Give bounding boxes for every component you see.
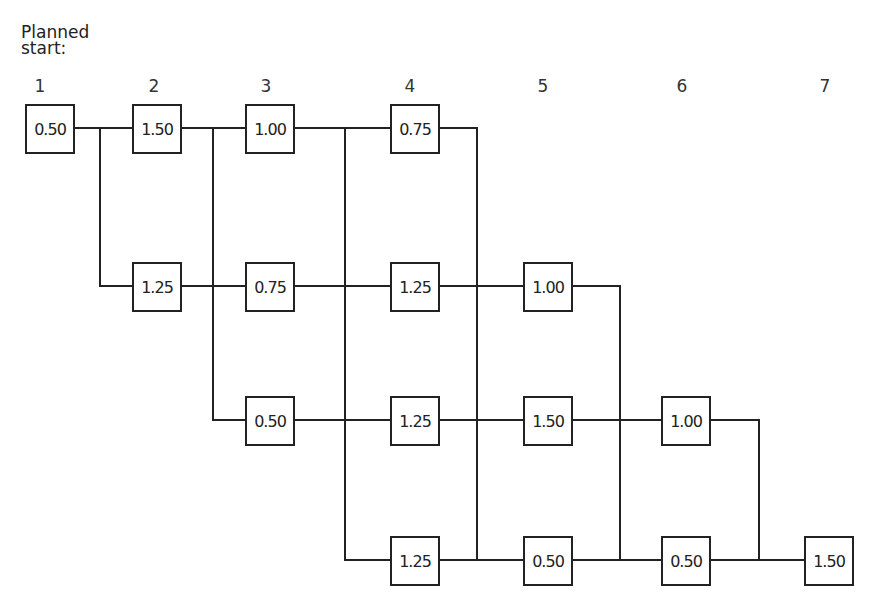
activity-node: 1.25 (390, 536, 440, 586)
activity-node: 0.50 (661, 536, 711, 586)
activity-node: 1.25 (390, 262, 440, 312)
activity-node: 0.75 (245, 262, 295, 312)
activity-node: 1.00 (523, 262, 573, 312)
activity-node: 0.50 (523, 536, 573, 586)
activity-node: 1.50 (132, 104, 182, 154)
activity-node: 0.50 (25, 104, 75, 154)
activity-node: 0.50 (245, 396, 295, 446)
activity-node: 1.50 (523, 396, 573, 446)
activity-node: 1.00 (245, 104, 295, 154)
activity-node: 1.25 (132, 262, 182, 312)
activity-node: 1.25 (390, 396, 440, 446)
activity-node: 0.75 (390, 104, 440, 154)
activity-node: 1.50 (804, 536, 854, 586)
activity-node: 1.00 (661, 396, 711, 446)
